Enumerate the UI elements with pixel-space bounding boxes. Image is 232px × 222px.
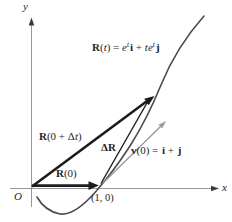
position-initial-rest: (0) — [64, 167, 77, 179]
curve-eq-exponent-2: t — [153, 40, 155, 49]
velocity-label: v(0) = i + j — [131, 144, 181, 156]
y-axis-label: y — [23, 0, 28, 12]
origin-label: O — [14, 190, 22, 202]
point-label: (1, 0) — [91, 192, 114, 204]
position-initial-label: R(0) — [56, 167, 77, 179]
curve-eq-equals: ) = — [107, 41, 122, 53]
velocity-j: j — [178, 144, 182, 156]
velocity-plus: + — [165, 144, 177, 156]
curve-eq-exponent-1: t — [127, 40, 129, 49]
delta-r-label: ΔR — [101, 141, 116, 153]
position-delta-label: R(0 + Δt) — [39, 130, 82, 142]
position-delta-open: (0 + Δ — [47, 130, 75, 142]
curve-eq-j: j — [156, 41, 160, 53]
x-axis-label: x — [222, 181, 227, 193]
vector-r0dt-line — [32, 102, 147, 187]
curve-eq-plus: + — [133, 41, 145, 53]
vector-diagram: y x O R(t) = eti + tetj R(0 + Δt) ΔR v(0… — [0, 0, 232, 222]
position-initial-R: R — [56, 167, 64, 179]
position-delta-R: R — [39, 130, 47, 142]
x-axis-arrowhead-icon — [211, 186, 219, 191]
curve-eq-R: R — [92, 41, 100, 53]
diagram-canvas — [0, 0, 232, 222]
curve-eq-te: te — [145, 41, 153, 53]
position-delta-close: ) — [78, 130, 82, 142]
y-axis-arrowhead-icon — [29, 18, 35, 26]
velocity-mid: (0) = — [137, 144, 162, 156]
curve-equation-label: R(t) = eti + tetj — [92, 41, 160, 53]
